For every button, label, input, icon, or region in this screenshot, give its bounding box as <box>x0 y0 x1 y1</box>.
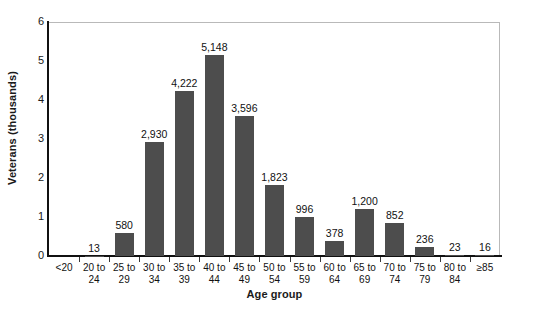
x-axis-tick-label: 60 to64 <box>320 262 350 285</box>
bar-value-label: 1,823 <box>261 171 287 183</box>
bar[interactable] <box>445 255 464 256</box>
x-axis-tick-label-line1: ≥85 <box>470 262 500 274</box>
bar[interactable] <box>235 116 254 256</box>
y-axis-tick-label-slot: 3 <box>0 133 44 144</box>
x-axis-title: Age group <box>49 288 500 300</box>
x-axis-tick-label-line2: 69 <box>350 274 380 286</box>
x-axis-tick-label-line1: 30 to <box>139 262 169 274</box>
bar-series: 135802,9304,2225,1483,5961,8239963781,20… <box>49 22 500 256</box>
bar-group[interactable]: 5,148 <box>199 22 229 256</box>
bar-group[interactable]: 996 <box>290 22 320 256</box>
bar[interactable] <box>415 247 434 256</box>
x-axis-tick-label-line1: 55 to <box>290 262 320 274</box>
x-axis-tick-label-line1: 80 to <box>440 262 470 274</box>
bar[interactable] <box>355 209 374 256</box>
bar-group[interactable]: 1,200 <box>350 22 380 256</box>
x-axis-tick-label-line2: 44 <box>199 274 229 286</box>
bar-group[interactable] <box>49 22 79 256</box>
x-axis-tick-label: <20 <box>49 262 79 285</box>
x-axis-tick-label: 80 to84 <box>440 262 470 285</box>
bar[interactable] <box>205 55 224 256</box>
x-axis-tick-label-line1: 75 to <box>410 262 440 274</box>
x-axis-tick-label-line1: 50 to <box>259 262 289 274</box>
bar[interactable] <box>145 142 164 256</box>
y-axis-tick-label-slot: 1 <box>0 211 44 222</box>
bar-group[interactable]: 2,930 <box>139 22 169 256</box>
bar-group[interactable]: 3,596 <box>229 22 259 256</box>
bar-group[interactable]: 4,222 <box>169 22 199 256</box>
x-axis-tick-label-line2: 79 <box>410 274 440 286</box>
x-axis-tick-label-line1: 45 to <box>229 262 259 274</box>
bar[interactable] <box>115 233 134 256</box>
bar-value-label: 852 <box>386 209 404 221</box>
bar[interactable] <box>265 185 284 256</box>
y-axis-tick-label: 5 <box>4 55 44 66</box>
bar[interactable] <box>475 255 494 256</box>
x-axis-tick-label-line1: 25 to <box>109 262 139 274</box>
x-axis-tick-label-line2: 39 <box>169 274 199 286</box>
bar-value-label: 2,930 <box>141 128 167 140</box>
y-axis-tick-label: 4 <box>4 94 44 105</box>
x-axis-tick-label-line2: 59 <box>290 274 320 286</box>
bar[interactable] <box>295 217 314 256</box>
x-axis-tick-label-line2: 49 <box>229 274 259 286</box>
x-axis-tick-label: 40 to44 <box>199 262 229 285</box>
bar-value-label: 1,200 <box>352 195 378 207</box>
x-axis-tick-label-line1: 65 to <box>350 262 380 274</box>
bar-group[interactable]: 852 <box>380 22 410 256</box>
bar-group[interactable]: 16 <box>470 22 500 256</box>
x-axis-tick-label-line1: <20 <box>49 262 79 274</box>
y-axis-tick-label: 3 <box>4 133 44 144</box>
bar-group[interactable]: 23 <box>440 22 470 256</box>
chart-figure: Veterans (thousands) 0123456 135802,9304… <box>0 0 535 311</box>
y-axis-tick-label-slot: 4 <box>0 94 44 105</box>
bar[interactable] <box>325 241 344 256</box>
bar-group[interactable]: 378 <box>320 22 350 256</box>
x-axis-tick-label: 25 to29 <box>109 262 139 285</box>
bar[interactable] <box>85 256 104 257</box>
x-axis-tick-label-line2: 24 <box>79 274 109 286</box>
x-axis-tick-labels: <2020 to2425 to2930 to3435 to3940 to4445… <box>49 262 500 285</box>
bar-group[interactable]: 1,823 <box>259 22 289 256</box>
x-axis-tick-label-line1: 35 to <box>169 262 199 274</box>
bar-value-label: 580 <box>115 219 133 231</box>
x-axis-tick-label-line1: 40 to <box>199 262 229 274</box>
x-axis-tick-label: 35 to39 <box>169 262 199 285</box>
x-axis-tick-label-line2: 74 <box>380 274 410 286</box>
y-axis-tick-label: 2 <box>4 172 44 183</box>
bar-value-label: 378 <box>326 227 344 239</box>
y-axis-tick-label-slot: 0 <box>0 250 44 261</box>
y-axis-tick-label-slot: 6 <box>0 16 44 27</box>
x-axis-tick-label-line2: 54 <box>259 274 289 286</box>
x-axis-tick-label: ≥85 <box>470 262 500 285</box>
y-axis-tick-label: 0 <box>4 250 44 261</box>
x-axis-tick-label-line2: 29 <box>109 274 139 286</box>
bar-value-label: 5,148 <box>201 41 227 53</box>
x-axis-tick-label-line2: 84 <box>440 274 470 286</box>
bar[interactable] <box>385 223 404 256</box>
bar-value-label: 996 <box>296 203 314 215</box>
y-axis-tick-label-slot: 5 <box>0 55 44 66</box>
y-axis-tick-label: 1 <box>4 211 44 222</box>
x-axis-tick-label-line1: 70 to <box>380 262 410 274</box>
x-axis-tick-label: 50 to54 <box>259 262 289 285</box>
x-axis-tick-label: 65 to69 <box>350 262 380 285</box>
x-axis-tick-label: 70 to74 <box>380 262 410 285</box>
bar-value-label: 16 <box>479 241 491 253</box>
bar-value-label: 4,222 <box>171 77 197 89</box>
bar-group[interactable]: 580 <box>109 22 139 256</box>
bar-group[interactable]: 13 <box>79 22 109 256</box>
x-axis-tick-label-line1: 20 to <box>79 262 109 274</box>
bar-value-label: 23 <box>449 241 461 253</box>
figure-bottom-margin <box>0 303 535 311</box>
bar-value-label: 13 <box>88 242 100 254</box>
bar[interactable] <box>175 91 194 256</box>
x-axis-tick-label: 30 to34 <box>139 262 169 285</box>
x-axis-tick-label-line2: 34 <box>139 274 169 286</box>
x-axis-tick-label: 45 to49 <box>229 262 259 285</box>
y-axis-tick-label-slot: 2 <box>0 172 44 183</box>
bar-group[interactable]: 236 <box>410 22 440 256</box>
bar-value-label: 236 <box>416 233 434 245</box>
x-axis-tick-label-line2: 64 <box>320 274 350 286</box>
x-axis-tick-label: 20 to24 <box>79 262 109 285</box>
